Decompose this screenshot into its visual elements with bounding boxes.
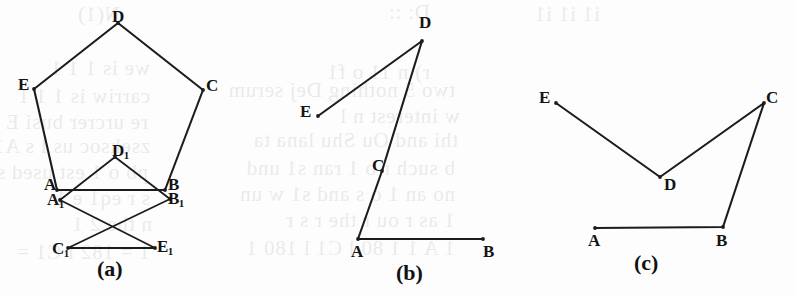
pentagram-A1B1C1D1E1 [60,157,170,248]
polyline-EDCBA [556,103,764,228]
vertex-letter: E [18,75,29,94]
figure-c-caption: (c) [634,252,658,274]
figure-a-vertex-C1: C1 [52,240,70,257]
vertex-subscript: 1 [179,197,185,209]
figure-b-vertex-D: D [419,14,431,31]
vertex-letter: C [766,88,778,107]
vertex-dot [356,237,360,241]
vertex-dot [481,237,485,241]
vertex-letter: C [206,76,218,95]
figure-b-vertex-B: B [483,243,494,260]
figure-b-caption: (b) [396,262,423,284]
vertex-letter: A [588,231,600,250]
figure-c-vertex-D: D [664,176,676,193]
figure-a-vertex-E1: E1 [157,238,174,255]
vertex-letter: D [419,13,431,32]
figure-b [318,41,483,239]
figure-c [556,103,764,228]
figure-c-vertex-A: A [588,232,600,249]
figure-b-vertex-C: C [372,157,384,174]
vertex-letter: D [112,7,124,26]
figure-a [34,23,203,248]
vertex-letter: A [351,242,363,261]
figure-a-vertex-C: C [206,77,218,94]
pentagon-ABCDE [34,23,203,190]
vertex-letter: D [664,175,676,194]
figure-a-vertex-E: E [18,76,29,93]
figure-a-vertex-B1: B1 [168,190,185,207]
vertex-dot [658,175,662,179]
vertex-letter: C [52,239,64,258]
figure-c-vertex-E: E [539,89,550,106]
figure-a-vertex-D: D [112,8,124,25]
vertex-letter: E [300,102,311,121]
vertex-dot [420,39,424,43]
vertex-subscript: 1 [168,245,174,257]
figure-b-vertex-E: E [300,103,311,120]
polyline-EDCAB [318,41,483,239]
figure-b-vertex-A: A [351,243,363,260]
figure-a-vertex-D1: D1 [112,142,130,159]
vertex-letter: A [47,190,59,209]
vertex-letter: B [168,189,179,208]
vertex-dot [163,188,167,192]
vertex-dot [32,87,36,91]
vertex-dot [201,88,205,92]
vertex-dot [593,226,597,230]
vertex-subscript: 1 [124,149,130,161]
figure-page: N(1)D: ::i1 i1 i1we is 1 1 1r) n 11 o f1… [0,0,795,296]
vertex-letter: D [112,141,124,160]
vertex-letter: B [483,242,494,261]
figure-a-vertex-A1: A1 [47,191,65,208]
vertex-letter: E [539,88,550,107]
vertex-dot [721,225,725,229]
vertex-letter: B [716,231,727,250]
vertex-letter: E [157,237,168,256]
vertex-subscript: 1 [64,247,70,259]
vertex-dot [554,101,558,105]
figure-a-caption: (a) [97,258,123,280]
figure-c-vertex-C: C [766,89,778,106]
figure-c-vertex-B: B [716,232,727,249]
vertex-subscript: 1 [59,198,65,210]
vertex-dot [316,114,320,118]
vertex-letter: C [372,156,384,175]
